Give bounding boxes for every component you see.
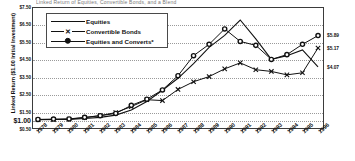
data-point-marker <box>223 27 227 31</box>
y-axis-tick-label: $5.50 <box>1 39 31 44</box>
y-axis-tick-label: $1.50 <box>1 109 31 114</box>
data-point-marker <box>238 39 242 43</box>
y-axis-tick-label: $4.50 <box>1 57 31 62</box>
y-axis-tick-label: $6.50 <box>1 22 31 27</box>
y-axis-tick-label: $3.50 <box>1 74 31 79</box>
legend-swatch-line-icon <box>50 16 86 26</box>
chart-legend: Equities ✕ Convertible Bonds Equities an… <box>46 13 168 48</box>
data-point-marker <box>191 54 195 58</box>
series-end-value-label: $5.89 <box>327 33 339 38</box>
legend-item-equities: Equities <box>50 16 164 26</box>
data-point-marker <box>36 117 40 121</box>
data-point-marker <box>207 42 211 46</box>
legend-item-equities-and-converts: Equities and Converts* <box>50 36 164 46</box>
y-axis-tick-labels: $7.50$6.50$5.50$4.50$3.50$2.50$1.50$1.00… <box>0 7 31 129</box>
legend-swatch-x-marker-icon: ✕ <box>50 26 86 36</box>
data-point-marker <box>160 88 164 92</box>
data-point-marker <box>51 117 55 121</box>
data-point-marker <box>83 115 87 119</box>
data-point-marker <box>300 42 304 46</box>
data-point-marker <box>285 53 289 57</box>
y-axis-tick-label: $7.50 <box>1 5 31 10</box>
data-point-marker <box>98 114 102 118</box>
data-point-marker <box>114 111 118 115</box>
legend-label: Equities and Converts* <box>86 38 154 45</box>
data-point-marker <box>129 103 133 107</box>
series-end-value-label: $5.17 <box>327 45 339 50</box>
series-end-value-label: $4.07 <box>327 64 339 69</box>
y-axis-tick-label: $2.50 <box>1 92 31 97</box>
data-point-marker <box>67 117 71 121</box>
data-point-marker <box>316 34 320 38</box>
chart-title: Linked Return of Equities, Convertible B… <box>36 0 316 6</box>
data-point-marker <box>176 74 180 78</box>
x-axis-tick-labels: 1978197919801981198219831984198519861987… <box>32 130 324 161</box>
chart-figure: Linked Return of Equities, Convertible B… <box>0 0 355 161</box>
y-axis-tick-label: $1.00 <box>1 117 31 124</box>
legend-swatch-circle-marker-icon <box>50 36 86 46</box>
data-point-marker <box>269 57 273 61</box>
legend-label: Equities <box>86 18 110 25</box>
y-axis-tick-label: $0.50 <box>1 127 31 132</box>
legend-label: Convertible Bonds <box>86 28 141 35</box>
data-point-marker <box>145 97 149 101</box>
legend-item-convertible-bonds: ✕ Convertible Bonds <box>50 26 164 36</box>
data-point-marker <box>254 43 258 47</box>
